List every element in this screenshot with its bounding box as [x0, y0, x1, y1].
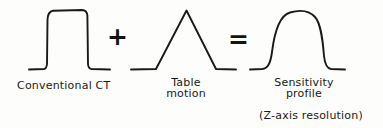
- operator-plus-group: +: [107, 22, 128, 51]
- plus-icon: +: [107, 22, 128, 51]
- operator-equals-group: =: [228, 25, 249, 54]
- label-sensitivity-profile-line2: profile: [286, 87, 322, 100]
- sublabel-z-axis-resolution: (Z-axis resolution): [259, 109, 363, 122]
- ct-sensitivity-profile-diagram: Conventional CT + Table motion = Sensiti…: [0, 0, 383, 128]
- equals-icon: =: [228, 25, 249, 54]
- label-conventional-ct: Conventional CT: [17, 79, 110, 92]
- label-table-motion-line2: motion: [166, 87, 206, 100]
- diagram-canvas: Conventional CT + Table motion = Sensiti…: [0, 0, 383, 128]
